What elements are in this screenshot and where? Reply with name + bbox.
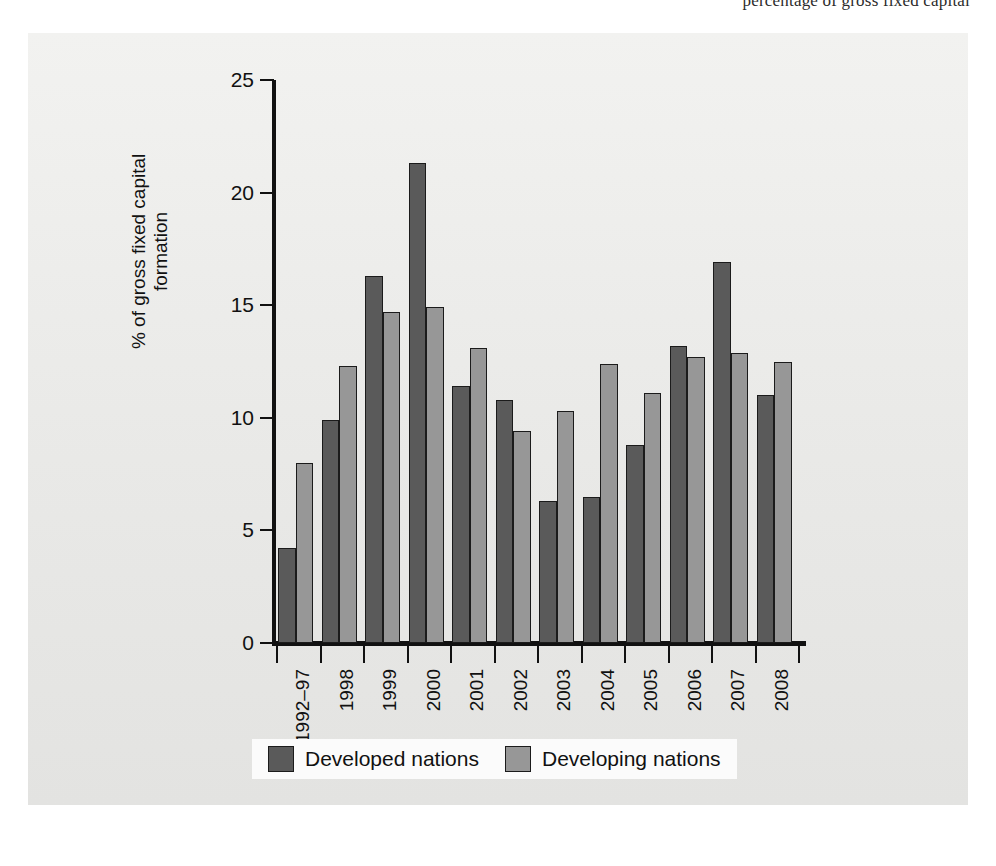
bar-developing (296, 463, 314, 643)
chart-legend: Developed nationsDeveloping nations (252, 739, 737, 779)
legend-label: Developed nations (305, 747, 479, 771)
x-axis-label: 2007 (727, 669, 749, 711)
y-tick-mark (260, 642, 274, 644)
x-tick-mark (276, 646, 278, 663)
y-axis-title-line2: formation (150, 121, 172, 381)
bar-developing (339, 366, 357, 643)
x-tick-mark (494, 646, 496, 663)
y-tick-mark (260, 304, 274, 306)
x-axis-label: 2000 (423, 669, 445, 711)
bar-developed (583, 497, 601, 643)
bar-developed (757, 395, 775, 643)
y-tick-label-text: 5 (214, 519, 254, 540)
page-running-text: percentage of gross fixed capital (0, 0, 996, 11)
legend-item: Developed nations (268, 746, 479, 772)
x-tick-mark (537, 646, 539, 663)
y-tick-label-text: 25 (214, 69, 254, 90)
bar-developed (409, 163, 427, 643)
y-tick-mark (260, 192, 274, 194)
bar-developing (513, 431, 531, 643)
bar-chart: % of gross fixed capital formation 05101… (28, 33, 968, 805)
x-axis-label: 2001 (466, 669, 488, 711)
x-axis-label: 1998 (336, 669, 358, 711)
x-axis-label: 2008 (771, 669, 793, 711)
bar-developed (322, 420, 340, 643)
x-axis-label: 2003 (553, 669, 575, 711)
bar-developed (626, 445, 644, 643)
bar-developing (557, 411, 575, 643)
y-tick-label-text: 0 (214, 632, 254, 653)
x-axis-label: 2006 (684, 669, 706, 711)
bar-developed (539, 501, 557, 643)
bar-developed (452, 386, 470, 643)
x-tick-mark (363, 646, 365, 663)
y-axis-title: % of gross fixed capital formation (128, 121, 173, 381)
x-tick-mark (407, 646, 409, 663)
x-tick-mark (798, 646, 800, 663)
bar-developed (670, 346, 688, 643)
bars-layer (276, 80, 808, 643)
bar-developing (644, 393, 662, 643)
x-tick-mark (624, 646, 626, 663)
bar-developing (470, 348, 488, 643)
y-tick-mark (260, 417, 274, 419)
y-tick-label-text: 10 (214, 407, 254, 428)
x-tick-mark (450, 646, 452, 663)
x-tick-mark (320, 646, 322, 663)
y-tick-label-text: 15 (214, 294, 254, 315)
x-axis-label: 2005 (640, 669, 662, 711)
figure-panel: % of gross fixed capital formation 05101… (28, 33, 968, 805)
x-axis-label: 2002 (510, 669, 532, 711)
x-tick-mark (581, 646, 583, 663)
bar-developed (365, 276, 383, 643)
x-tick-mark (668, 646, 670, 663)
bar-developed (496, 400, 514, 643)
bar-developed (713, 262, 731, 643)
legend-item: Developing nations (505, 746, 721, 772)
bar-developing (426, 307, 444, 643)
bar-developing (383, 312, 401, 643)
y-tick-mark (260, 79, 274, 81)
x-axis-label: 1992–97 (292, 669, 314, 743)
legend-label: Developing nations (542, 747, 721, 771)
y-axis-title-line1: % of gross fixed capital (128, 121, 150, 381)
y-tick-label-text: 20 (214, 182, 254, 203)
x-axis-label: 1999 (379, 669, 401, 711)
bar-developing (687, 357, 705, 643)
bar-developing (731, 353, 749, 644)
bar-developing (774, 362, 792, 644)
x-tick-mark (755, 646, 757, 663)
x-tick-mark (711, 646, 713, 663)
bar-developing (600, 364, 618, 643)
bar-developed (278, 548, 296, 643)
dark-gray-swatch (268, 746, 294, 772)
x-axis-label: 2004 (597, 669, 619, 711)
y-tick-mark (260, 529, 274, 531)
light-gray-swatch (505, 746, 531, 772)
